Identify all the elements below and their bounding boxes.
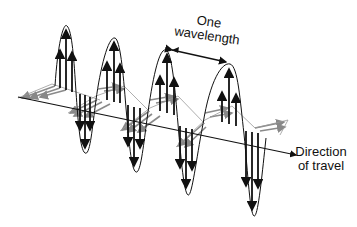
direction-label: Direction of travel: [285, 145, 357, 173]
direction-label-line1: Direction: [285, 145, 357, 159]
em-wave-diagram: One wavelength Direction of travel: [0, 0, 357, 227]
propagation-axis: [18, 97, 296, 155]
electric-field-envelope: [55, 25, 266, 216]
direction-label-line2: of travel: [285, 159, 357, 173]
wavelength-indicator: [172, 47, 226, 62]
magnetic-field-outline: [18, 84, 288, 147]
